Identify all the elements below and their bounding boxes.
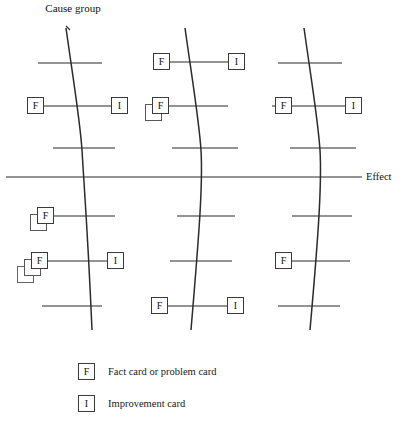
spine-middle xyxy=(185,28,202,330)
card-left-mid-fact[interactable]: F xyxy=(37,207,54,224)
cause-group-label: Cause group xyxy=(38,2,108,15)
card-left-upper-improvement[interactable]: I xyxy=(111,97,128,114)
spine-left xyxy=(66,28,92,330)
card-right-lower-fact[interactable]: F xyxy=(275,252,292,269)
legend-card-improvement: I xyxy=(78,395,95,412)
legend-label-improvement: Improvement card xyxy=(108,395,185,412)
card-middle-top-fact[interactable]: F xyxy=(153,53,170,70)
card-middle-top-improvement[interactable]: I xyxy=(228,53,245,70)
card-left-lower-fact[interactable]: F xyxy=(31,252,48,269)
effect-label: Effect xyxy=(366,171,391,182)
card-right-upper-improvement[interactable]: I xyxy=(345,97,362,114)
card-middle-bottom-improvement[interactable]: I xyxy=(227,297,244,314)
card-left-upper-fact[interactable]: F xyxy=(27,97,44,114)
card-middle-bottom-fact[interactable]: F xyxy=(151,297,168,314)
legend-card-fact: F xyxy=(78,363,95,380)
card-left-lower-improvement[interactable]: I xyxy=(107,252,124,269)
legend: F Fact card or problem card I Improvemen… xyxy=(0,355,406,428)
legend-label-fact: Fact card or problem card xyxy=(108,363,216,380)
spine-right xyxy=(304,28,321,330)
fishbone-diagram: Cause group Effect F I F F I F I F F I F… xyxy=(0,0,406,428)
card-right-upper-fact[interactable]: F xyxy=(275,97,292,114)
card-middle-upper-fact[interactable]: F xyxy=(152,97,169,114)
